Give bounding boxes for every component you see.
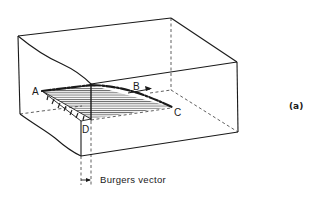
left-edge xyxy=(18,36,20,114)
panel-label: (a) xyxy=(289,101,303,111)
label-B: B xyxy=(133,81,140,92)
slip-back-hidden xyxy=(150,90,171,93)
top-front-edge xyxy=(91,62,237,84)
label-A: A xyxy=(32,86,39,97)
arrowhead-icon xyxy=(86,178,91,182)
label-C: C xyxy=(174,107,181,118)
crystal-box xyxy=(18,18,238,156)
slip-direction-arrow xyxy=(128,86,152,93)
top-back-edge xyxy=(18,18,171,36)
bottom-front-edge xyxy=(81,132,238,156)
burgers-vector-caption: Burgers vector xyxy=(100,174,166,185)
top-left-curved-edge xyxy=(18,36,91,84)
dislocation-diagram: A B C D Burgers vector (a) xyxy=(0,0,322,207)
label-D: D xyxy=(82,124,89,135)
arrowhead-icon xyxy=(145,86,152,91)
bottom-left-curved-edge xyxy=(20,114,81,156)
left-bottom-hidden xyxy=(20,111,42,114)
top-right-edge xyxy=(171,18,237,62)
burgers-vector-arrow xyxy=(81,178,91,182)
right-edge xyxy=(237,62,238,132)
